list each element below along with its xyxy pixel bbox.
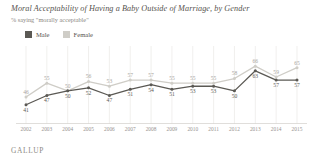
plot-svg: 4147505247515451535350635757465550565357… [16, 46, 307, 124]
data-label: 55 [190, 75, 196, 81]
data-label: 57 [127, 72, 133, 78]
data-label: 58 [232, 70, 238, 76]
data-label: 50 [65, 93, 71, 99]
legend-label-male: Male [36, 31, 50, 38]
data-point [233, 77, 236, 80]
data-label: 66 [253, 58, 259, 64]
data-point [212, 82, 215, 85]
x-axis-label: 2007 [125, 126, 136, 132]
data-point [296, 66, 299, 69]
x-axis-label: 2009 [167, 126, 178, 132]
x-axis-label: 2015 [292, 126, 303, 132]
x-axis: 2002200320042005200620072008200920102011… [16, 124, 307, 140]
data-label: 53 [211, 88, 217, 94]
x-axis-label: 2005 [83, 126, 94, 132]
legend-item-female[interactable]: Female [63, 31, 93, 38]
data-label: 57 [294, 82, 300, 88]
data-point [25, 96, 28, 99]
data-label: 54 [148, 87, 154, 93]
data-label: 53 [107, 78, 113, 84]
data-point [108, 85, 111, 88]
legend-swatch-female [63, 31, 70, 38]
data-label: 53 [190, 88, 196, 94]
data-label: 63 [253, 73, 259, 79]
data-label: 55 [169, 75, 175, 81]
data-point [150, 79, 153, 82]
chart-legend: Male Female [25, 31, 93, 38]
page-title: Moral Acceptability of Having a Baby Out… [11, 4, 249, 13]
brand-footer: GALLUP [11, 146, 44, 155]
data-label: 46 [23, 89, 29, 95]
chart-subtitle: % saying "morally acceptable" [11, 16, 89, 23]
x-axis-label: 2008 [146, 126, 157, 132]
data-label: 52 [86, 90, 92, 96]
data-label: 55 [211, 75, 217, 81]
x-axis-label: 2014 [271, 126, 282, 132]
data-label: 51 [127, 91, 133, 97]
data-label: 47 [44, 97, 50, 103]
x-axis-label: 2002 [21, 126, 32, 132]
legend-item-male[interactable]: Male [25, 31, 50, 38]
data-label: 65 [294, 60, 300, 66]
data-label: 41 [23, 107, 29, 113]
data-label: 51 [169, 91, 175, 97]
data-point [45, 82, 48, 85]
data-label: 50 [232, 93, 238, 99]
gallup-line-chart: Moral Acceptability of Having a Baby Out… [0, 0, 318, 161]
data-label: 47 [107, 97, 113, 103]
data-label: 55 [44, 75, 50, 81]
data-point [254, 65, 257, 68]
data-label: 59 [273, 69, 279, 75]
data-label: 57 [273, 82, 279, 88]
data-label: 56 [86, 73, 92, 79]
x-axis-label: 2010 [187, 126, 198, 132]
data-point [170, 82, 173, 85]
x-axis-label: 2006 [104, 126, 115, 132]
plot-area: 4147505247515451535350635757465550565357… [16, 46, 307, 124]
data-point [87, 80, 90, 83]
x-axis-label: 2012 [229, 126, 240, 132]
x-axis-label: 2013 [250, 126, 261, 132]
x-axis-label: 2011 [208, 126, 219, 132]
x-axis-label: 2004 [62, 126, 73, 132]
data-point [275, 75, 278, 78]
data-point [129, 79, 132, 82]
data-label: 50 [65, 83, 71, 89]
data-label: 57 [148, 72, 154, 78]
x-axis-label: 2003 [41, 126, 52, 132]
legend-swatch-male [25, 31, 32, 38]
data-point [191, 82, 194, 85]
legend-label-female: Female [74, 31, 93, 38]
